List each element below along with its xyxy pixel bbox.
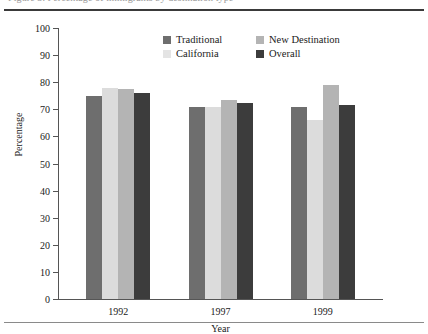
y-axis-tick-label: 100 xyxy=(35,23,50,34)
y-axis-tick xyxy=(53,55,58,56)
y-axis-tick xyxy=(53,136,58,137)
x-axis-line xyxy=(58,299,383,300)
legend-item-overall[interactable]: Overall xyxy=(256,47,301,61)
legend-item-new-destination[interactable]: New Destination xyxy=(256,33,340,47)
bar-overall-1999[interactable] xyxy=(339,105,355,299)
y-axis-tick xyxy=(53,299,58,300)
legend-row: Traditional New Destination xyxy=(163,33,340,47)
y-axis-tick-label: 80 xyxy=(40,77,50,88)
y-axis-tick xyxy=(53,272,58,273)
bar-new-destination-1999[interactable] xyxy=(323,85,339,299)
y-axis-title: Percentage xyxy=(13,95,24,175)
y-axis-tick xyxy=(53,82,58,83)
x-axis-tick-label: 1992 xyxy=(73,306,163,317)
rule-bottom xyxy=(4,322,424,323)
bar-group xyxy=(86,28,150,299)
legend-label: Overall xyxy=(269,47,301,61)
bar-overall-1992[interactable] xyxy=(134,93,150,299)
legend-label: New Destination xyxy=(269,33,340,47)
x-axis-tick-label: 1999 xyxy=(278,306,368,317)
bar-california-1992[interactable] xyxy=(102,88,118,299)
bar-overall-1997[interactable] xyxy=(237,103,253,299)
legend-label: Traditional xyxy=(176,33,222,47)
legend-swatch-traditional-icon xyxy=(163,36,171,44)
legend-swatch-new-destination-icon xyxy=(256,36,264,44)
y-axis-tick-label: 40 xyxy=(40,185,50,196)
bar-traditional-1997[interactable] xyxy=(189,107,205,299)
figure-caption: Figure 3. Percentage of immigrants by de… xyxy=(8,0,233,3)
legend-label: California xyxy=(176,47,219,61)
legend-item-california[interactable]: California xyxy=(163,47,256,61)
y-axis-tick-label: 50 xyxy=(40,158,50,169)
x-axis-tick-label: 1997 xyxy=(176,306,266,317)
legend-row: California Overall xyxy=(163,47,340,61)
y-axis-tick-label: 0 xyxy=(45,294,50,305)
y-axis-tick-label: 10 xyxy=(40,266,50,277)
y-axis-tick-label: 90 xyxy=(40,50,50,61)
y-axis-tick xyxy=(53,164,58,165)
bar-group xyxy=(291,28,355,299)
legend-swatch-california-icon xyxy=(163,50,171,58)
y-axis-tick xyxy=(53,218,58,219)
bar-new-destination-1997[interactable] xyxy=(221,100,237,299)
chart-legend: Traditional New Destination California O… xyxy=(163,33,340,61)
y-axis-line xyxy=(58,28,59,300)
bar-traditional-1992[interactable] xyxy=(86,96,102,299)
y-axis-tick-label: 30 xyxy=(40,212,50,223)
bar-california-1999[interactable] xyxy=(307,120,323,299)
legend-swatch-overall-icon xyxy=(256,50,264,58)
y-axis-tick-label: 20 xyxy=(40,239,50,250)
y-axis-tick xyxy=(53,245,58,246)
x-axis-title: Year xyxy=(58,323,383,334)
y-axis-tick xyxy=(53,28,58,29)
bar-group xyxy=(189,28,253,299)
y-axis-tick-label: 70 xyxy=(40,104,50,115)
y-axis-tick xyxy=(53,109,58,110)
bar-traditional-1999[interactable] xyxy=(291,107,307,299)
figure-caption-strip: Figure 3. Percentage of immigrants by de… xyxy=(0,0,428,9)
y-axis-tick xyxy=(53,191,58,192)
plot-area: 0102030405060708090100 199219971999 Year xyxy=(58,28,383,300)
bar-california-1997[interactable] xyxy=(205,107,221,299)
bar-new-destination-1992[interactable] xyxy=(118,89,134,299)
y-axis-tick-label: 60 xyxy=(40,131,50,142)
bar-chart-figure: Percentage 0102030405060708090100 199219… xyxy=(0,11,428,321)
legend-item-traditional[interactable]: Traditional xyxy=(163,33,256,47)
